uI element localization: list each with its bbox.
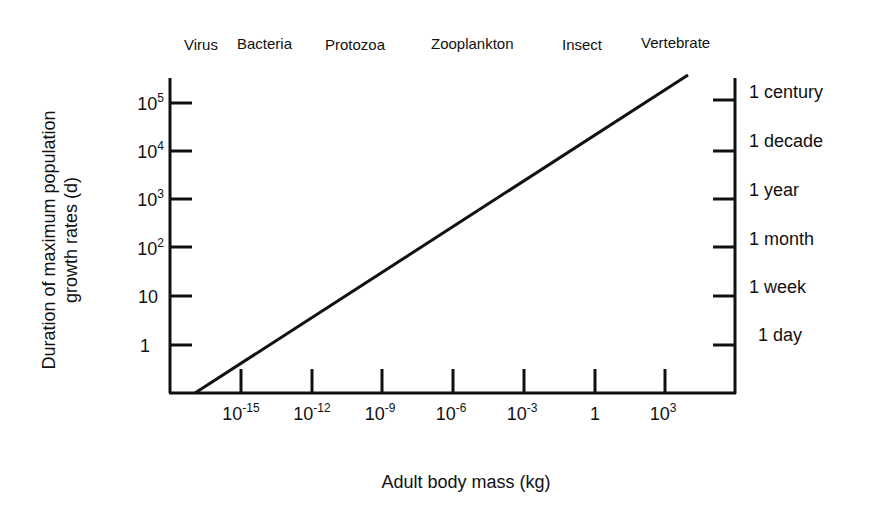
svg-text:1 century: 1 century [749, 82, 823, 102]
svg-text:1 decade: 1 decade [749, 131, 823, 151]
chart-canvas: Virus Bacteria Protozoa Zooplankton Inse… [0, 0, 871, 517]
trend-line [195, 75, 688, 393]
organism-label-protozoa: Protozoa [325, 36, 386, 53]
organism-labels: Virus Bacteria Protozoa Zooplankton Inse… [184, 34, 710, 53]
organism-label-zooplankton: Zooplankton [431, 35, 514, 52]
x-ticks [241, 369, 665, 393]
left-y-ticks [170, 103, 192, 345]
svg-text:1: 1 [590, 404, 600, 424]
svg-text:Duration of maximum population: Duration of maximum population [39, 110, 59, 369]
y-axis-title: Duration of maximum population growth ra… [39, 110, 81, 369]
svg-text:1 year: 1 year [749, 180, 799, 200]
svg-text:1: 1 [140, 336, 150, 356]
svg-text:10: 10 [138, 287, 158, 307]
svg-text:103: 103 [137, 187, 164, 210]
svg-text:10-9: 10-9 [365, 401, 396, 424]
organism-label-bacteria: Bacteria [237, 35, 293, 52]
right-y-tick-labels: 1 day 1 week 1 month 1 year 1 decade 1 c… [749, 82, 823, 345]
right-y-ticks [713, 100, 735, 345]
svg-text:1 month: 1 month [749, 229, 814, 249]
svg-text:10-3: 10-3 [507, 401, 538, 424]
svg-text:10-15: 10-15 [222, 401, 260, 424]
x-tick-labels: 10-15 10-12 10-9 10-6 10-3 1 103 [222, 401, 676, 424]
svg-text:102: 102 [137, 236, 164, 259]
svg-text:growth rates (d): growth rates (d) [61, 177, 81, 303]
svg-text:10-12: 10-12 [293, 401, 331, 424]
organism-label-insect: Insect [562, 36, 603, 53]
svg-text:104: 104 [137, 139, 164, 162]
svg-text:10-6: 10-6 [436, 401, 467, 424]
svg-text:1 day: 1 day [758, 325, 802, 345]
organism-label-vertebrate: Vertebrate [641, 34, 710, 51]
svg-text:1 week: 1 week [749, 277, 807, 297]
x-axis-title: Adult body mass (kg) [381, 472, 550, 492]
left-y-tick-labels: 1 10 102 103 104 105 [137, 91, 164, 356]
svg-text:105: 105 [137, 91, 164, 114]
svg-text:103: 103 [650, 401, 677, 424]
organism-label-virus: Virus [184, 36, 218, 53]
